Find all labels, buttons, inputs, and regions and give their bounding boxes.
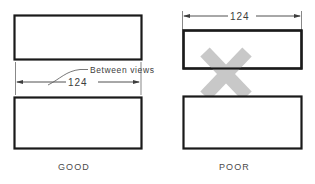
- technical-drawing-canvas: 124 Between views 124: [0, 0, 315, 184]
- poor-front-view-rectangle: [184, 97, 302, 149]
- good-dimension-value: 124: [68, 77, 88, 88]
- good-top-view-rectangle: [15, 16, 142, 60]
- panel-good: 124 Between views: [15, 16, 155, 149]
- caption-poor: POOR: [219, 162, 250, 172]
- good-front-view-rectangle: [15, 98, 142, 149]
- drawing-sheet: 124 Between views 124: [0, 0, 315, 184]
- caption-good: GOOD: [58, 162, 90, 172]
- panel-poor: 124: [183, 11, 302, 149]
- poor-dimension-arrow-left: [183, 14, 190, 18]
- poor-dimension-arrow-right: [294, 14, 301, 18]
- good-note-label: Between views: [90, 65, 155, 75]
- good-dimension-arrow-left: [16, 80, 23, 84]
- good-dimension-arrow-right: [133, 80, 140, 84]
- poor-dimension-value: 124: [230, 11, 250, 22]
